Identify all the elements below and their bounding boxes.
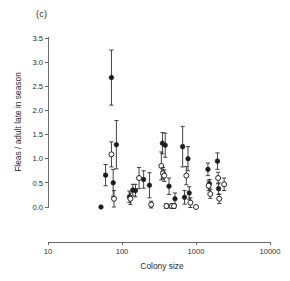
y-tick-label: 2.0 — [32, 106, 43, 115]
data-point-open — [128, 196, 133, 201]
data-point-filled — [167, 184, 172, 189]
data-point-open — [222, 182, 227, 187]
x-axis: 10100100010000 — [44, 242, 281, 256]
data-point-open — [137, 176, 142, 181]
data-point-filled — [186, 156, 191, 161]
data-point-filled — [173, 196, 178, 201]
data-point-filled — [215, 159, 220, 164]
data-point-open — [184, 173, 189, 178]
y-tick-label: 2.5 — [32, 82, 43, 91]
data-point-filled — [182, 195, 187, 200]
figure-panel: (c) 0.00.51.01.52.02.53.03.5 10100100010… — [0, 0, 290, 281]
data-point-open — [172, 204, 177, 209]
data-point-filled — [147, 183, 152, 188]
data-point-open — [188, 200, 193, 205]
y-tick-label: 1.0 — [32, 154, 43, 163]
data-point-open — [164, 204, 169, 209]
data-point-open — [112, 196, 117, 201]
y-tick-label: 3.0 — [32, 58, 43, 67]
data-point-open — [162, 173, 167, 178]
data-point-filled — [180, 144, 185, 149]
data-point-open — [149, 202, 154, 207]
x-tick-label: 1000 — [188, 247, 205, 256]
scatter-plot: 0.00.51.01.52.02.53.03.5 10100100010000 … — [0, 0, 290, 281]
y-axis-title: Fleas / adult late in season — [13, 72, 23, 172]
x-tick-label: 10 — [44, 247, 52, 256]
x-tick-label: 100 — [116, 247, 129, 256]
data-point-filled — [103, 173, 108, 178]
data-point-open — [109, 152, 114, 157]
data-point-filled — [187, 191, 192, 196]
data-points-layer — [99, 50, 227, 209]
data-point-filled — [206, 167, 211, 172]
data-point-filled — [99, 205, 104, 210]
y-tick-label: 3.5 — [32, 34, 43, 43]
data-point-open — [208, 191, 213, 196]
data-point-open — [194, 205, 199, 210]
data-point-open — [206, 183, 211, 188]
y-tick-label: 0.0 — [32, 203, 43, 212]
data-point-open — [217, 196, 222, 201]
data-point-filled — [111, 181, 116, 186]
y-axis: 0.00.51.01.52.02.53.03.5 — [32, 34, 48, 212]
data-point-filled — [216, 186, 221, 191]
y-tick-label: 0.5 — [32, 179, 43, 188]
data-point-filled — [163, 143, 168, 148]
y-tick-label: 1.5 — [32, 130, 43, 139]
x-axis-title: Colony size — [140, 261, 184, 271]
data-point-open — [216, 176, 221, 181]
data-point-filled — [114, 142, 119, 147]
data-point-filled — [109, 75, 114, 80]
x-tick-label: 10000 — [259, 247, 280, 256]
